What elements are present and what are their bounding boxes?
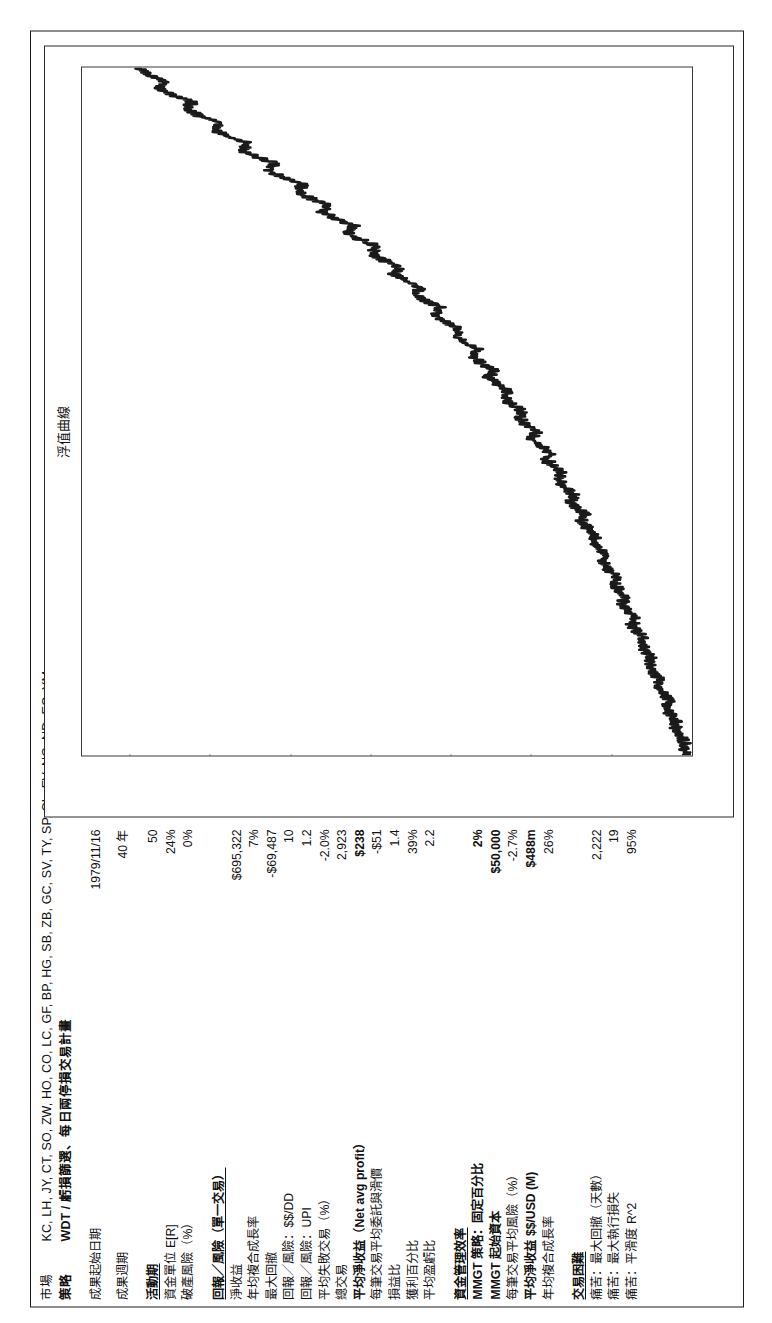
stat-value: 24% — [164, 829, 178, 863]
stat-label: 成果週期 — [113, 1251, 131, 1299]
stat-label: 損益比 — [385, 1263, 403, 1299]
stat-label: MMGT 起始資本 — [486, 1210, 504, 1299]
market-label: 市場 — [36, 1241, 55, 1299]
y-axis-tick-mark — [370, 754, 371, 756]
stat-label: 平均失敗交易（%） — [315, 1192, 333, 1299]
stat-group-risk-head: 回報／風險（單一交易） — [209, 829, 227, 1299]
statistics-block: 成果起始日期 1979/11/16 成果週期 40 年 活動期 50 資金單位 … — [86, 829, 640, 1299]
stat-value: -$69,487 — [265, 829, 279, 887]
stat-label: 回報／風險（單一交易） — [209, 1167, 227, 1299]
stat-label: 每筆交易平均委託與滑價 — [367, 1167, 385, 1299]
stat-row: 總交易2,923 — [332, 829, 350, 1299]
stat-value: 95% — [625, 829, 639, 863]
stat-label: 年均複合成長率 — [539, 1215, 557, 1299]
stat-row: 平均失敗交易（%）-2.0% — [315, 829, 333, 1299]
stat-label: 每筆交易平均風險（%） — [503, 1168, 521, 1299]
stat-row: 痛苦：最大執行損失19 — [604, 829, 622, 1299]
stat-label: 淨收益 — [227, 1263, 245, 1299]
y-axis-tick-mark — [611, 754, 612, 756]
stat-duration: 成果週期 40 年 — [113, 829, 131, 1299]
stat-group-activity-head: 活動期 50 — [143, 829, 161, 1299]
rotated-page-wrapper: 市場 KC, LH, JY, CT, SO, ZW, HO, CO, LC, G… — [0, 0, 772, 1323]
stat-value: 10 — [282, 829, 296, 853]
stat-label: 痛苦：最大執行損失 — [604, 1191, 622, 1299]
equity-curve-line — [82, 67, 692, 755]
stat-value: $488m — [524, 829, 538, 877]
stat-row: 年均複合成長率7% — [244, 829, 262, 1299]
stat-value: 1979/11/16 — [89, 829, 103, 899]
chart-plot-area: $0$100,000$200,000$300,000$400,000$500,0… — [81, 66, 693, 756]
stat-row: 回報／風險：$$/DD10 — [279, 829, 297, 1299]
stat-value: $238 — [353, 829, 367, 866]
chart-title: 浮值曲線 — [53, 46, 72, 816]
stat-row: 痛苦：最大回撤（天數）2,222 — [587, 829, 605, 1299]
stat-group-pain-head: 交易困難 — [569, 829, 587, 1299]
stat-row: 獲利百分比39% — [403, 829, 421, 1299]
stat-row: 每筆交易平均風險（%）-2.7% — [503, 829, 521, 1299]
stat-label: 活動期 — [143, 1263, 161, 1299]
stat-row: 資金單位 E[R] 24% — [161, 829, 179, 1299]
stat-value: 19 — [607, 829, 621, 853]
stat-value: 1.4 — [388, 829, 402, 856]
strategy-label: 策略 — [55, 1241, 74, 1299]
y-axis-tick-mark — [210, 754, 211, 756]
stat-value: 2,923 — [335, 829, 349, 870]
stat-label: 回報／風險：$$/DD — [279, 1192, 297, 1299]
y-axis-tick-mark — [130, 754, 131, 756]
stat-row: 破產風險（%） 0% — [178, 829, 196, 1299]
stat-label: 破產風險（%） — [178, 1216, 196, 1299]
stat-label: 交易困難 — [569, 1251, 587, 1299]
stat-value: 26% — [542, 829, 556, 863]
stat-label: 資金單位 E[R] — [161, 1224, 179, 1299]
stat-label: 平均淨收益（Net avg profit） — [350, 1136, 368, 1299]
stat-label: 總交易 — [332, 1263, 350, 1299]
stat-value: 2% — [471, 829, 485, 857]
stat-value: 0% — [181, 829, 195, 857]
y-axis-tick-mark — [290, 754, 291, 756]
equity-curve-chart-panel: 浮值曲線 $0$100,000$200,000$300,000$400,000$… — [44, 45, 734, 817]
stat-label: 年均複合成長率 — [244, 1215, 262, 1299]
stat-row: 年均複合成長率26% — [539, 829, 557, 1299]
stat-row: 痛苦：平滑度 R^295% — [622, 829, 640, 1299]
stat-label: 獲利百分比 — [403, 1239, 421, 1299]
y-axis-tick-mark — [451, 754, 452, 756]
stat-label: 平均淨收益 $$/USD (M) — [521, 1171, 539, 1299]
y-axis-tick-mark — [531, 754, 532, 756]
stat-value: 39% — [406, 829, 420, 863]
stat-row: MMGT 策略：固定百分比2% — [468, 829, 486, 1299]
stat-group-mmgt-head: 資金管理效率 — [451, 829, 469, 1299]
stat-row: 平均盈虧比2.2 — [420, 829, 438, 1299]
report-sheet: 市場 KC, LH, JY, CT, SO, ZW, HO, CO, LC, G… — [0, 0, 772, 1323]
stat-start-date: 成果起始日期 1979/11/16 — [86, 829, 104, 1299]
stat-row: 最大回撤-$69,487 — [262, 829, 280, 1299]
stat-row: 損益比1.4 — [385, 829, 403, 1299]
stat-value: 50 — [146, 829, 160, 853]
stat-value: -2.0% — [318, 829, 332, 871]
stat-value: -2.7% — [506, 829, 520, 871]
stat-value: 1.2 — [300, 829, 314, 856]
stat-value: 2.2 — [423, 829, 437, 856]
stat-label: 平均盈虧比 — [420, 1239, 438, 1299]
stat-row: MMGT 起始資本$50,000 — [486, 829, 504, 1299]
stat-label: 痛苦：平滑度 R^2 — [622, 1202, 640, 1299]
stat-label: 資金管理效率 — [451, 1227, 469, 1299]
stat-value: $50,000 — [489, 829, 503, 883]
stat-row: 回報／風險：UPI1.2 — [297, 829, 315, 1299]
stat-row: 平均淨收益 $$/USD (M)$488m — [521, 829, 539, 1299]
stat-value: 40 年 — [113, 829, 131, 868]
stat-value: $695,322 — [230, 829, 244, 890]
stat-row: 每筆交易平均委託與滑價-$51 — [367, 829, 385, 1299]
stat-value: 2,222 — [590, 829, 604, 870]
stat-row: 平均淨收益（Net avg profit）$238 — [350, 829, 368, 1299]
stat-label: MMGT 策略：固定百分比 — [468, 1162, 486, 1299]
stat-value: 7% — [247, 829, 261, 857]
stat-label: 痛苦：最大回撤（天數） — [587, 1167, 605, 1299]
strategy-value: WDT / 虧損篩選、每日兩停損交易計畫 — [55, 1018, 74, 1241]
stat-row: 淨收益$695,322 — [227, 829, 245, 1299]
stat-label: 成果起始日期 — [86, 1227, 104, 1299]
stat-value: -$51 — [370, 829, 384, 863]
stat-label: 最大回撤 — [262, 1251, 280, 1299]
stat-label: 回報／風險：UPI — [297, 1207, 315, 1299]
